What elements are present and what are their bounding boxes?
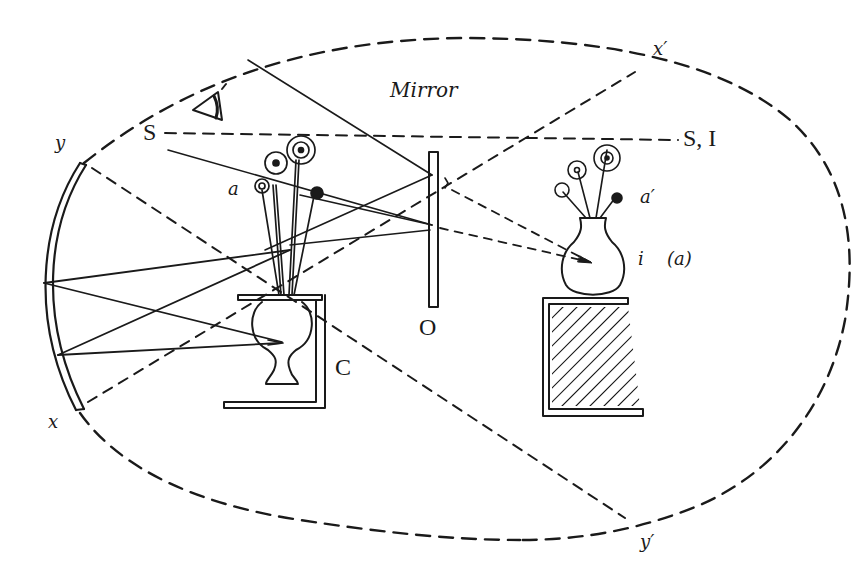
label-source: S <box>143 120 156 144</box>
field-ellipse-lower <box>80 413 520 540</box>
label-centre-c: C <box>335 355 351 379</box>
label-object-a: a <box>228 180 239 198</box>
label-x: x <box>48 413 58 431</box>
label-source-image: S, I <box>683 126 716 150</box>
inverted-vase <box>252 302 312 384</box>
label-figure-tag: (a) <box>667 250 692 268</box>
image-vase <box>562 218 624 295</box>
hatched-stand <box>540 244 794 420</box>
label-y: y <box>55 134 65 152</box>
concave-mirror <box>46 163 86 410</box>
label-image-point-i: i <box>638 250 644 268</box>
label-y-prime: y′ <box>640 533 654 551</box>
eye-icon <box>193 84 226 120</box>
image-flowers <box>555 145 622 218</box>
field-ellipse-upper <box>84 38 850 540</box>
label-image-aprime: a′ <box>640 188 655 206</box>
label-mirror-pole-o: O <box>419 315 436 339</box>
real-flowers <box>255 136 323 295</box>
line-s-si <box>165 133 678 140</box>
line-y-yprime <box>92 168 625 518</box>
label-x-prime: x′ <box>653 40 667 58</box>
optics-diagram: Mirror S S, I a a′ i (a) O C x x′ y y′ <box>0 0 866 583</box>
label-mirror: Mirror <box>390 80 458 100</box>
